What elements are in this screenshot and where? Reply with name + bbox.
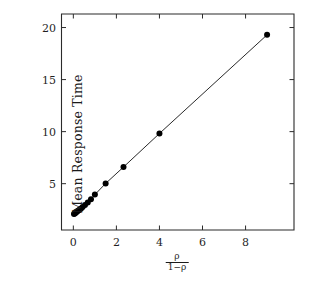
data-point bbox=[88, 196, 94, 202]
x-tick-label: 0 bbox=[70, 237, 77, 248]
x-tick-label: 8 bbox=[242, 237, 249, 248]
y-tick-label: 15 bbox=[28, 74, 56, 85]
x-tick-label: 4 bbox=[156, 237, 163, 248]
fraction-numerator: ρ bbox=[166, 252, 189, 262]
x-axis-label: ρ 1−ρ bbox=[166, 252, 189, 273]
data-point bbox=[103, 180, 109, 186]
data-point bbox=[92, 192, 98, 198]
chart-figure: 02468 5101520 Mean Response Time ρ 1−ρ bbox=[0, 0, 319, 288]
y-tick-label: 5 bbox=[28, 178, 56, 189]
axis-frame bbox=[62, 14, 295, 230]
y-tick-label: 10 bbox=[28, 126, 56, 137]
data-point bbox=[264, 32, 270, 38]
y-axis-ticks bbox=[62, 28, 295, 184]
fraction-denominator: 1−ρ bbox=[166, 263, 189, 273]
y-tick-label: 20 bbox=[28, 22, 56, 33]
data-point bbox=[121, 164, 127, 170]
data-point bbox=[156, 131, 162, 137]
x-tick-label: 2 bbox=[113, 237, 120, 248]
x-tick-label: 6 bbox=[199, 237, 206, 248]
y-axis-label: Mean Response Time bbox=[70, 74, 85, 213]
data-series-group bbox=[71, 32, 270, 217]
plot-frame bbox=[62, 14, 295, 230]
trend-line bbox=[74, 35, 267, 214]
x-axis-label-fraction: ρ 1−ρ bbox=[166, 252, 189, 273]
x-axis-ticks bbox=[73, 14, 245, 230]
